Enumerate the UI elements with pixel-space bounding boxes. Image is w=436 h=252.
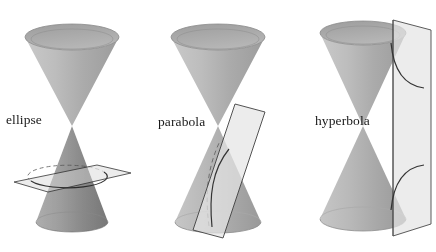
label-parabola: parabola xyxy=(158,115,205,129)
upper-cone-rim xyxy=(171,24,265,50)
label-ellipse: ellipse xyxy=(6,113,42,127)
upper-cone-rim xyxy=(25,24,119,50)
panel-hyperbola: hyperbola xyxy=(290,0,435,252)
panel-parabola: parabola xyxy=(145,0,290,252)
panel-ellipse: ellipse xyxy=(0,0,145,252)
cutting-plane-hyperbola xyxy=(393,20,431,236)
conic-sections-figure: ellipse xyxy=(0,0,436,252)
label-hyperbola: hyperbola xyxy=(315,114,370,128)
